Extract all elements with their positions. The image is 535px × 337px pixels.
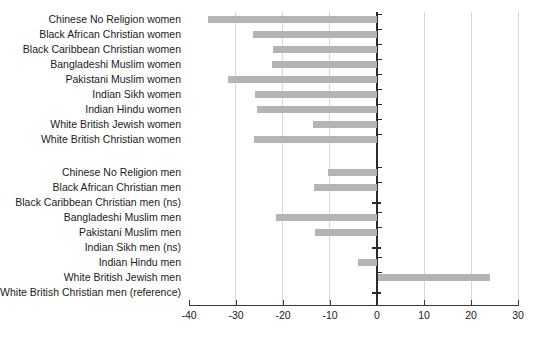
row-tick <box>377 104 382 105</box>
row-tick <box>377 29 382 30</box>
category-label: Bangladeshi Muslim men <box>64 212 181 223</box>
gridline-minus30 <box>235 12 236 305</box>
category-label: Bangladeshi Muslim women <box>50 59 181 70</box>
x-tick <box>471 300 472 306</box>
row-tick <box>377 59 382 60</box>
category-label: Black African Christian men <box>53 182 181 193</box>
x-tick <box>330 300 331 306</box>
category-label: White British Jewish women <box>50 119 181 130</box>
x-tick <box>236 300 237 306</box>
row-tick <box>377 74 382 75</box>
gridline-30 <box>518 12 519 305</box>
category-label: Black Caribbean Christian men (ns) <box>15 197 181 208</box>
x-tick-label: 30 <box>512 309 524 321</box>
bar-black-african-christian-women <box>253 31 377 38</box>
gridline-10 <box>424 12 425 305</box>
row-tick <box>377 227 382 228</box>
bar-white-british-jewish-men <box>378 274 490 281</box>
x-tick-label: 0 <box>374 309 380 321</box>
category-label: White British Christian women <box>41 134 181 145</box>
row-tick <box>377 119 382 120</box>
bar-indian-sikh-women <box>255 91 377 98</box>
category-label: Pakistani Muslim men <box>79 227 181 238</box>
bar-black-african-christian-men <box>314 184 377 191</box>
category-label: White British Jewish men <box>64 272 181 283</box>
category-label: Indian Hindu men <box>99 257 181 268</box>
category-label: Indian Hindu women <box>85 104 181 115</box>
bar-pakistani-muslim-women <box>228 76 377 83</box>
bar-indian-hindu-men <box>358 259 377 266</box>
row-tick <box>377 14 382 15</box>
bar-indian-hindu-women <box>257 106 377 113</box>
gridline-minus10 <box>329 12 330 305</box>
category-label: Indian Sikh women <box>92 89 181 100</box>
x-tick <box>189 300 190 306</box>
row-tick <box>377 167 382 168</box>
row-tick <box>377 134 382 135</box>
row-tick <box>377 44 382 45</box>
x-tick-label: -40 <box>181 309 196 321</box>
marker-white-british-christian-men-ref <box>372 292 381 294</box>
row-tick <box>377 182 382 183</box>
category-label: White British Christian men (reference) <box>0 287 181 298</box>
x-tick-label: -10 <box>322 309 337 321</box>
x-tick <box>377 300 378 306</box>
bar-bangladeshi-muslim-women <box>272 61 377 68</box>
chart-title-fragment <box>250 0 535 4</box>
category-label: Black Caribbean Christian women <box>23 44 181 55</box>
bar-chinese-no-religion-women <box>208 16 377 23</box>
category-label: Chinese No Religion men <box>62 167 181 178</box>
category-label: Pakistani Muslim women <box>65 74 181 85</box>
bar-pakistani-muslim-men <box>315 229 377 236</box>
row-tick <box>377 212 382 213</box>
marker-black-caribbean-christian-men-ns <box>372 202 381 204</box>
x-tick-label: 20 <box>465 309 477 321</box>
bar-chinese-no-religion-men <box>328 169 377 176</box>
category-label: Indian Sikh men (ns) <box>85 242 181 253</box>
bar-black-caribbean-christian-women <box>273 46 377 53</box>
plot-area <box>189 12 518 305</box>
category-label: Black African Christian women <box>39 29 181 40</box>
row-tick <box>377 272 382 273</box>
marker-indian-sikh-men-ns <box>372 247 381 249</box>
bar-bangladeshi-muslim-men <box>276 214 377 221</box>
row-tick <box>377 89 382 90</box>
bar-white-british-jewish-women <box>313 121 377 128</box>
bar-white-british-christian-women <box>254 136 377 143</box>
gridline-20 <box>471 12 472 305</box>
category-label: Chinese No Religion women <box>49 14 182 25</box>
x-axis-line <box>189 305 519 306</box>
x-tick <box>424 300 425 306</box>
x-tick <box>518 300 519 306</box>
gridline-minus20 <box>282 12 283 305</box>
category-axis-labels: Chinese No Religion women Black African … <box>0 12 185 305</box>
x-tick-label: 10 <box>418 309 430 321</box>
x-tick <box>283 300 284 306</box>
x-tick-label: -30 <box>228 309 243 321</box>
x-tick-label: -20 <box>275 309 290 321</box>
bar-chart: Chinese No Religion women Black African … <box>0 0 535 337</box>
row-tick <box>377 257 382 258</box>
